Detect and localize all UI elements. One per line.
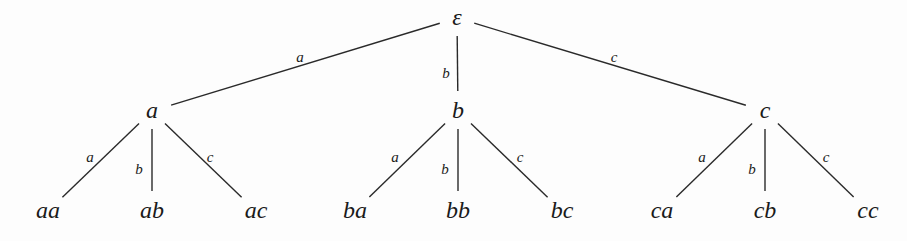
edge-c-ca-label: a (698, 149, 706, 165)
node-bc: bc (551, 197, 574, 223)
edge-root-a-label: a (296, 49, 304, 65)
edge-a-ac (165, 123, 242, 197)
edge-c-cb-label: b (748, 161, 756, 177)
edge-root-a (171, 23, 440, 105)
node-ca: ca (651, 197, 674, 223)
edge-c-cc (778, 124, 854, 198)
edge-root-c-label: c (611, 49, 618, 65)
node-bb: bb (446, 197, 470, 223)
edge-b-bb-label: b (441, 161, 449, 177)
edge-a-aa-label: a (86, 149, 94, 165)
node-a: a (146, 97, 158, 123)
node-c: c (760, 97, 771, 123)
node-ab: ab (140, 197, 164, 223)
edge-a-aa (62, 123, 139, 197)
node-b: b (452, 97, 464, 123)
edge-c-cc-label: c (823, 149, 830, 165)
edge-a-ac-label: c (207, 149, 214, 165)
edge-c-ca (676, 124, 752, 198)
edge-root-b-label: b (442, 65, 450, 81)
trie-diagram: abcabcabcabc εabcaaabacbabbbccacbcc (0, 0, 907, 241)
node-root-epsilon: ε (452, 4, 462, 30)
edge-b-bc-label: c (517, 149, 524, 165)
edge-b-bc (471, 123, 548, 197)
node-cb: cb (754, 197, 777, 223)
node-ac: ac (245, 197, 268, 223)
edge-a-ab-label: b (135, 161, 143, 177)
node-aa: aa (36, 197, 60, 223)
edge-b-ba (369, 124, 445, 198)
edge-b-ba-label: a (391, 149, 399, 165)
node-ba: ba (343, 197, 367, 223)
node-cc: cc (857, 197, 879, 223)
edge-root-b (457, 36, 458, 91)
